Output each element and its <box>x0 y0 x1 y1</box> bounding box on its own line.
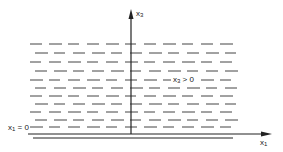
x3-axis-arrowhead-icon <box>129 9 134 19</box>
fluid-region-hatching <box>30 44 238 127</box>
boundary-rest: = 0 <box>15 123 29 132</box>
x1-axis-arrowhead-icon <box>261 132 272 137</box>
half-space-diagram <box>0 0 283 152</box>
x3-sub: 3 <box>140 12 143 18</box>
x3-axis-label: x3 <box>136 10 143 18</box>
boundary-label: x1 = 0 <box>8 124 30 132</box>
x1-axis-label: x1 <box>260 139 267 147</box>
region-label: x3 > 0 <box>171 76 196 84</box>
region-rest: > 0 <box>180 75 194 84</box>
x1-sub: 1 <box>264 141 267 147</box>
